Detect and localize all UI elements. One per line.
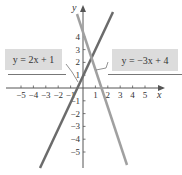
- y-tick-label: −2: [70, 109, 80, 119]
- equation-left-underline: [8, 74, 66, 75]
- x-tick-label: −2: [53, 90, 63, 100]
- leader-right: [96, 62, 108, 70]
- x-tick-label: 3: [118, 90, 123, 100]
- x-tick-label: −3: [41, 90, 51, 100]
- x-tick-label: −4: [29, 90, 39, 100]
- equation-left-text: y = 2x + 1: [13, 54, 54, 65]
- y-tick-label: 3: [76, 45, 81, 55]
- equation-label-left: y = 2x + 1: [5, 49, 62, 70]
- y-axis-label: y: [71, 2, 77, 13]
- x-tick-label: 4: [130, 90, 135, 100]
- x-tick-label: −5: [16, 90, 26, 100]
- y-tick-label: 2: [76, 57, 81, 67]
- x-axis: −5−4−3−2−112345: [6, 85, 165, 100]
- y-tick-label: −4: [70, 134, 80, 144]
- linear-equations-graph: −5−4−3−2−112345 −5−4−3−2−11234 x y: [0, 0, 182, 175]
- equation-right-text: y = −3x + 4: [122, 55, 169, 66]
- equation-right-underline: [108, 74, 182, 75]
- y-axis-arrow-icon: [80, 5, 86, 12]
- y-tick-label: 4: [76, 32, 81, 42]
- y-tick-label: −5: [70, 147, 80, 157]
- equation-label-right: y = −3x + 4: [112, 49, 178, 71]
- x-tick-label: 1: [93, 90, 98, 100]
- x-tick-label: 5: [143, 90, 148, 100]
- x-axis-label: x: [156, 89, 162, 100]
- y-tick-label: −3: [70, 121, 80, 131]
